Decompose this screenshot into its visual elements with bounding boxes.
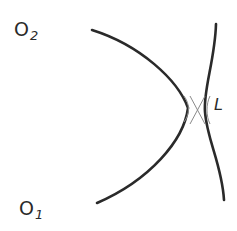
label-l: L — [214, 97, 223, 113]
left-arc — [92, 30, 188, 203]
label-o2: O2 — [14, 20, 38, 39]
label-o2-main: O — [14, 18, 29, 40]
label-o1-main: O — [19, 197, 34, 219]
label-o1: O1 — [19, 199, 43, 218]
diagram-canvas: O2 O1 L — [0, 0, 237, 231]
label-o1-sub: 1 — [35, 207, 43, 222]
label-o2-sub: 2 — [30, 28, 38, 43]
right-arc-inner — [207, 96, 210, 124]
